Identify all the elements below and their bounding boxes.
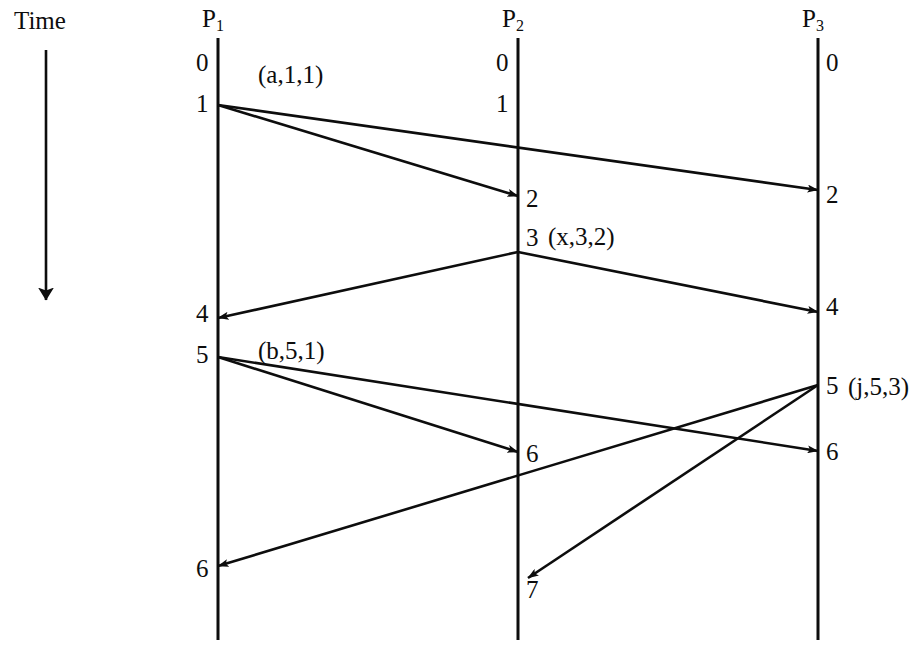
- event-label-p3-6: 6: [826, 439, 839, 464]
- process-header-p2: P2: [502, 6, 524, 34]
- message-label-2: (b,5,1): [258, 338, 325, 363]
- message-label-1: (x,3,2): [548, 224, 615, 249]
- event-label-p1-5: 5: [196, 342, 209, 367]
- spacetime-diagram-canvas: [0, 0, 923, 655]
- event-label-p1-1: 1: [196, 91, 209, 116]
- message-label-3: (j,5,3): [848, 374, 909, 399]
- event-label-p1-6: 6: [196, 556, 209, 581]
- message-label-0: (a,1,1): [258, 62, 323, 87]
- message-arrow-a-to-P2: [218, 105, 518, 196]
- message-arrow-x-to-P3: [518, 252, 818, 312]
- event-label-p3-4: 4: [826, 294, 839, 319]
- event-label-p3-5: 5: [826, 373, 839, 398]
- event-label-p1-0: 0: [196, 50, 209, 75]
- event-label-p1-4: 4: [196, 301, 209, 326]
- message-arrow-j-to-P2: [528, 385, 818, 578]
- event-label-p2-2: 2: [526, 186, 539, 211]
- message-arrow-b-to-P2: [218, 357, 518, 452]
- event-label-p2-0: 0: [496, 50, 509, 75]
- event-label-p2-1: 1: [496, 91, 509, 116]
- event-label-p3-0: 0: [826, 50, 839, 75]
- event-label-p2-3: 3: [526, 225, 539, 250]
- event-label-p2-6: 6: [526, 441, 539, 466]
- event-label-p2-7: 7: [526, 577, 539, 602]
- message-arrow-x-to-P1: [218, 252, 518, 318]
- event-label-p3-2: 2: [826, 182, 839, 207]
- time-axis-label: Time: [14, 8, 66, 33]
- process-header-p3: P3: [802, 6, 824, 34]
- process-header-p1: P1: [202, 6, 224, 34]
